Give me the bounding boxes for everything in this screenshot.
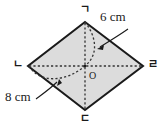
diagonal-measure-leader-line <box>36 82 57 99</box>
center-point-dot <box>84 65 87 68</box>
diagonal-measure-label: 8 cm <box>5 90 31 103</box>
figure-container: ㄱ ㄴ ㄷ ㄹ O 6 cm 8 cm <box>0 0 168 130</box>
vertex-label-top: ㄱ <box>80 4 90 15</box>
edge-measure-label: 6 cm <box>100 10 126 23</box>
center-point-label: O <box>89 71 96 81</box>
rhombus-figure-svg <box>0 0 168 130</box>
vertex-label-left: ㄴ <box>13 59 23 70</box>
vertex-label-right: ㄹ <box>148 59 158 70</box>
vertex-label-bottom: ㄷ <box>80 113 90 124</box>
